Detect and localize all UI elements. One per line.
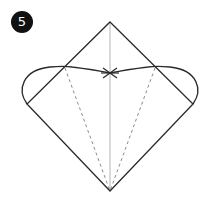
right-flap-curve: [110, 66, 198, 104]
dashed-fold-line-right: [110, 68, 155, 191]
left-flap-curve: [22, 66, 110, 104]
dashed-fold-line-left: [65, 68, 110, 191]
origami-fold-diagram: [0, 0, 209, 200]
